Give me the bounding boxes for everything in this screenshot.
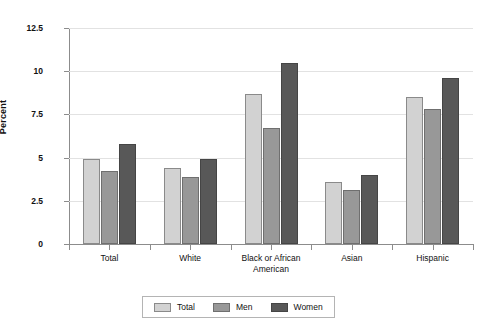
x-tick-label: Black or African American: [226, 253, 316, 275]
y-tick-label-7.5: 7.5: [9, 109, 43, 119]
bar: [361, 175, 378, 244]
y-tick-label-0: 0: [9, 239, 43, 249]
x-tick-mark-center: [352, 244, 353, 250]
legend-entry: Men: [213, 302, 253, 312]
bar: [325, 182, 342, 244]
legend-swatch-icon: [154, 303, 171, 312]
bar: [164, 168, 181, 244]
y-axis-line: [69, 28, 70, 244]
legend-swatch-icon: [271, 303, 288, 312]
chart-legend: TotalMenWomen: [142, 296, 335, 318]
x-tick-mark-boundary: [473, 244, 474, 250]
bar: [245, 94, 262, 244]
legend-label: Total: [177, 302, 195, 312]
plot-area: 02.557.51012.5: [69, 28, 473, 244]
y-tick-mark-5: [64, 158, 69, 159]
bar: [101, 171, 118, 244]
y-axis-title: Percent: [0, 82, 8, 152]
bar: [83, 159, 100, 244]
x-tick-label: Asian: [307, 253, 397, 264]
legend-entry: Total: [154, 302, 195, 312]
bar: [200, 159, 217, 244]
x-tick-mark-boundary: [231, 244, 232, 250]
bar: [343, 190, 360, 244]
y-tick-label-5: 5: [9, 153, 43, 163]
y-tick-mark-2.5: [64, 201, 69, 202]
bar-group: [83, 28, 136, 244]
bar-group: [325, 28, 378, 244]
legend-entry: Women: [271, 302, 323, 312]
x-tick-mark-boundary: [311, 244, 312, 250]
x-tick-mark-boundary: [150, 244, 151, 250]
bar: [406, 97, 423, 244]
legend-swatch-icon: [213, 303, 230, 312]
legend-label: Women: [294, 302, 323, 312]
x-tick-label: Total: [64, 253, 154, 264]
x-tick-mark-center: [271, 244, 272, 250]
bar-group: [164, 28, 217, 244]
y-tick-mark-7.5: [64, 114, 69, 115]
bar: [182, 177, 199, 244]
bar: [424, 109, 441, 244]
y-tick-label-10: 10: [9, 66, 43, 76]
bar: [281, 63, 298, 244]
legend-label: Men: [236, 302, 253, 312]
y-tick-mark-10: [64, 71, 69, 72]
y-tick-label-2.5: 2.5: [9, 196, 43, 206]
x-tick-label: Hispanic: [388, 253, 478, 264]
bar: [119, 144, 136, 244]
bar-group: [406, 28, 459, 244]
x-tick-mark-center: [190, 244, 191, 250]
y-tick-label-12.5: 12.5: [9, 23, 43, 33]
x-tick-mark-boundary: [392, 244, 393, 250]
bar: [263, 128, 280, 244]
x-tick-mark-center: [433, 244, 434, 250]
x-tick-mark-center: [109, 244, 110, 250]
bar-chart-figure: Percent 02.557.51012.5 TotalWhiteBlack o…: [0, 0, 492, 330]
bar: [442, 78, 459, 244]
y-tick-mark-12.5: [64, 28, 69, 29]
x-tick-label: White: [145, 253, 235, 264]
bar-group: [245, 28, 298, 244]
x-tick-mark-boundary: [69, 244, 70, 250]
